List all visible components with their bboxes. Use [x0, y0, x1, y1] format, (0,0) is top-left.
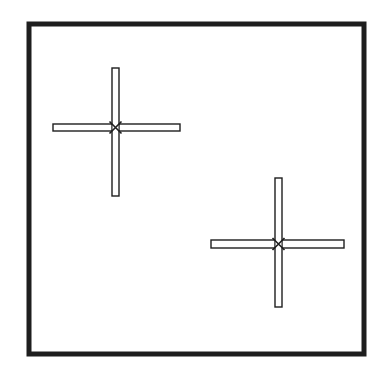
cross-marker-1: [53, 68, 180, 196]
vertical-bar: [112, 68, 119, 196]
diagram-canvas: [0, 0, 385, 367]
cross-marker-2: [211, 178, 344, 307]
cross-markers-group: [53, 68, 344, 307]
square-frame: [29, 24, 364, 354]
